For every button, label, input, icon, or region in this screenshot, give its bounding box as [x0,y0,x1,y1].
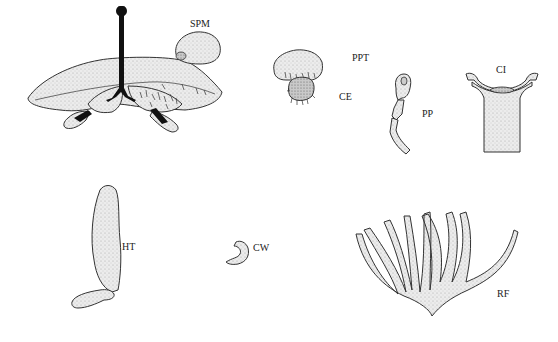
label-ce: CE [339,91,352,102]
label-pp: PP [422,108,434,119]
pp-figure: PP [390,74,434,154]
ci-figure: CI [466,64,538,152]
cw-figure: CW [226,241,270,264]
anatomical-figure: SPM PPT CE PP CI HT CW RF [0,0,558,342]
ppt-ce-figure: PPT CE [274,50,369,105]
label-ppt: PPT [352,52,369,63]
label-rf: RF [497,288,510,299]
label-spm: SPM [190,18,210,29]
label-ht: HT [122,241,135,252]
label-ci: CI [496,64,506,75]
label-cw: CW [253,242,270,253]
rf-figure: RF [356,212,518,316]
spm-figure: SPM [176,18,221,64]
ht-figure: HT [72,186,136,309]
